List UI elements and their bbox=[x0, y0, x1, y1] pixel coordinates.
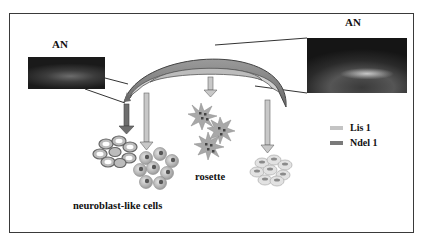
rosette-label: rosette bbox=[195, 171, 225, 182]
neuroblast-label: neuroblast-like cells bbox=[73, 200, 162, 211]
legend-swatch-ndel1 bbox=[330, 141, 343, 145]
arrow-to-cluster-4 bbox=[261, 100, 274, 153]
legend-item-lis1: Lis 1 bbox=[330, 120, 378, 135]
an-right-label: AN bbox=[345, 16, 361, 28]
cell-cluster-neuroblast bbox=[134, 148, 179, 190]
cell-cluster-1 bbox=[93, 136, 137, 168]
arrow-to-neuroblast bbox=[140, 93, 153, 150]
arrow-to-cluster-1 bbox=[119, 104, 134, 134]
legend-label-ndel1: Ndel 1 bbox=[350, 137, 378, 148]
an-left-label: AN bbox=[52, 38, 68, 50]
legend-item-ndel1: Ndel 1 bbox=[330, 135, 378, 150]
legend-label-lis1: Lis 1 bbox=[350, 122, 371, 133]
legend: Lis 1 Ndel 1 bbox=[330, 120, 378, 150]
legend-swatch-lis1 bbox=[330, 126, 343, 130]
arrow-to-rosette bbox=[204, 77, 217, 97]
cell-cluster-4 bbox=[250, 155, 292, 186]
cell-cluster-rosette bbox=[188, 103, 235, 160]
